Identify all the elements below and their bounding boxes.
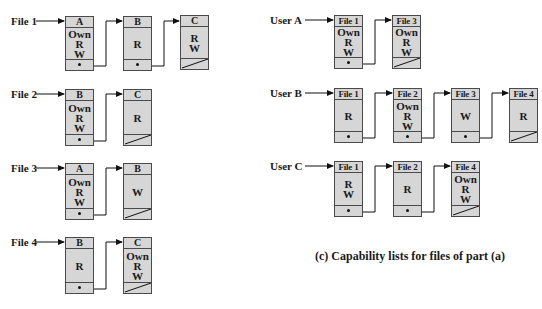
- entry-rights: R: [66, 249, 93, 282]
- entry-subject: A: [66, 17, 93, 28]
- entry-object: File 4: [510, 89, 537, 100]
- access-lists-diagram: File 1 A Own R W B R C R W File 2 B Own …: [0, 0, 542, 309]
- row-label-user-a: User A: [270, 14, 302, 26]
- entry-rights: Own R W: [66, 175, 93, 208]
- acl-entry: A Own R W: [65, 16, 94, 71]
- right: Own: [126, 251, 149, 261]
- right: R: [76, 187, 84, 197]
- right: W: [460, 111, 471, 121]
- entry-rights: R: [335, 100, 362, 131]
- pointer-dot: [347, 209, 350, 212]
- null-slash-icon: [124, 283, 151, 293]
- right: W: [343, 47, 354, 57]
- entry-rights: Own R W: [335, 27, 362, 57]
- entry-rights: Own R W: [66, 28, 93, 59]
- entry-rights: Own R W: [66, 101, 93, 134]
- null-pointer: [124, 134, 151, 145]
- next-pointer: [124, 59, 151, 70]
- entry-rights: Own R W: [393, 27, 420, 57]
- acl-entry: A Own R W: [65, 163, 94, 220]
- capability-entry: File 1 R: [334, 88, 363, 143]
- right: R: [404, 184, 412, 194]
- pointer-dot: [464, 135, 467, 138]
- next-pointer: [394, 205, 421, 216]
- right: W: [402, 121, 413, 131]
- null-slash-icon: [510, 132, 537, 142]
- entry-object: File 4: [452, 162, 479, 173]
- right: R: [76, 261, 84, 271]
- row-label-user-b: User B: [270, 87, 302, 99]
- entry-object: File 2: [394, 89, 421, 100]
- pointer-dot: [78, 286, 81, 289]
- pointer-dot: [347, 61, 350, 64]
- right: W: [74, 197, 85, 207]
- next-pointer: [66, 59, 93, 70]
- entry-object: File 2: [394, 162, 421, 173]
- null-slash-icon: [124, 135, 151, 145]
- capability-entry: File 3 Own R W: [392, 15, 421, 69]
- entry-subject: C: [124, 238, 151, 249]
- row-label-user-c: User C: [270, 160, 302, 172]
- right: Own: [68, 103, 91, 113]
- entry-rights: R: [394, 173, 421, 205]
- right: W: [343, 189, 354, 199]
- entry-object: File 1: [335, 89, 362, 100]
- acl-entry: B Own R W: [65, 89, 94, 146]
- row-label-file-1: File 1: [11, 15, 37, 27]
- next-pointer: [335, 131, 362, 142]
- null-pointer: [452, 205, 479, 216]
- entry-rights: R W: [181, 27, 208, 58]
- capability-entry: File 1 Own R W: [334, 15, 363, 69]
- pointer-dot: [78, 212, 81, 215]
- right: R: [134, 113, 142, 123]
- right: W: [460, 194, 471, 204]
- entry-subject: C: [124, 90, 151, 101]
- pointer-dot: [78, 138, 81, 141]
- entry-subject: B: [66, 238, 93, 249]
- null-pointer: [393, 57, 420, 68]
- right: W: [74, 123, 85, 133]
- capability-entry: File 3 W: [451, 88, 480, 143]
- figure-caption: (c) Capability lists for files of part (…: [315, 249, 505, 264]
- null-pointer: [124, 282, 151, 293]
- capability-entry: File 1 R W: [334, 161, 363, 217]
- capability-entry: File 2 Own R W: [393, 88, 422, 143]
- row-label-file-3: File 3: [11, 162, 37, 174]
- null-pointer: [124, 208, 151, 219]
- entry-rights: W: [124, 175, 151, 208]
- entry-subject: B: [66, 90, 93, 101]
- acl-entry: B W: [123, 163, 152, 220]
- acl-entry: C Own R W: [123, 237, 152, 294]
- acl-entry: C R: [123, 89, 152, 146]
- next-pointer: [335, 205, 362, 216]
- next-pointer: [66, 208, 93, 219]
- entry-rights: R: [510, 100, 537, 131]
- acl-entry: C R W: [180, 15, 209, 70]
- row-label-file-2: File 2: [11, 88, 37, 100]
- right: R: [76, 113, 84, 123]
- acl-entry: B R: [65, 237, 94, 294]
- next-pointer: [335, 57, 362, 68]
- right: W: [132, 271, 143, 281]
- entry-subject: B: [124, 164, 151, 175]
- null-slash-icon: [393, 58, 420, 68]
- capability-entry: File 2 R: [393, 161, 422, 217]
- entry-object: File 1: [335, 162, 362, 173]
- pointer-dot: [347, 135, 350, 138]
- next-pointer: [452, 131, 479, 142]
- right: R: [134, 39, 142, 49]
- right: W: [74, 49, 85, 59]
- right: W: [401, 47, 412, 57]
- pointer-dot: [406, 209, 409, 212]
- entry-rights: Own R W: [394, 100, 421, 131]
- right: R: [134, 261, 142, 271]
- capability-entry: File 4 R: [509, 88, 538, 143]
- right: R: [404, 111, 412, 121]
- null-slash-icon: [452, 206, 479, 216]
- null-slash-icon: [181, 59, 208, 69]
- entry-object: File 3: [452, 89, 479, 100]
- right: R: [520, 111, 528, 121]
- next-pointer: [394, 131, 421, 142]
- entry-rights: Own R W: [124, 249, 151, 282]
- pointer-dot: [78, 63, 81, 66]
